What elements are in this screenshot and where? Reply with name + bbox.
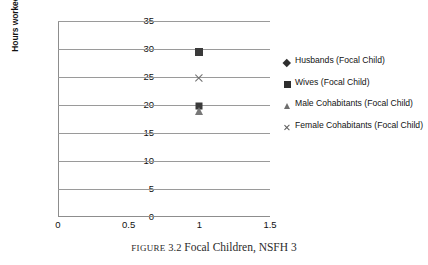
triangle-icon [284,103,290,109]
square-icon [195,48,203,56]
gridline [58,133,270,134]
legend-marker [283,58,292,67]
x-icon [284,124,291,131]
x-tick-label: 1.5 [250,220,290,230]
legend-marker [283,80,292,89]
figure-container: Hours worked per week 05101520253035 00.… [0,0,428,265]
legend-item[interactable]: Wives (Focal Child) [283,77,423,89]
y-axis-title: Hours worked per week [8,0,22,70]
caption-figure-word: FIGURE [131,243,165,253]
x-tick-label: 0 [38,220,78,230]
x-tick-label: 0.5 [109,220,149,230]
triangle-icon [195,107,203,115]
legend-item[interactable]: Male Cohabitants (Focal Child) [283,98,423,110]
square-icon [284,81,291,88]
y-axis-line [58,21,59,217]
legend-item[interactable]: Husbands (Focal Child) [283,55,423,67]
diamond-icon [283,58,291,66]
gridline [58,161,270,162]
legend-item-label: Husbands (Focal Child) [295,55,385,65]
chart-legend: Husbands (Focal Child)Wives (Focal Child… [283,55,423,141]
x-axis-line [58,216,270,217]
x-icon [194,73,204,83]
caption-text: Focal Children, NSFH 3 [184,241,296,253]
legend-item-label: Male Cohabitants (Focal Child) [295,98,413,108]
legend-item[interactable]: Female Cohabitants (Focal Child) [283,120,423,132]
gridline [58,49,270,50]
figure-caption: FIGURE 3.2 Focal Children, NSFH 3 [0,240,428,255]
gridline [58,21,270,22]
gridline [58,77,270,78]
gridline [58,189,270,190]
caption-figure-number: 3.2 [168,242,181,253]
legend-marker [283,123,292,132]
legend-item-label: Female Cohabitants (Focal Child) [295,120,423,130]
legend-item-label: Wives (Focal Child) [295,77,370,87]
x-tick-label: 1 [179,220,219,230]
gridline [58,105,270,106]
plot-area [58,21,270,217]
legend-marker [283,101,292,110]
